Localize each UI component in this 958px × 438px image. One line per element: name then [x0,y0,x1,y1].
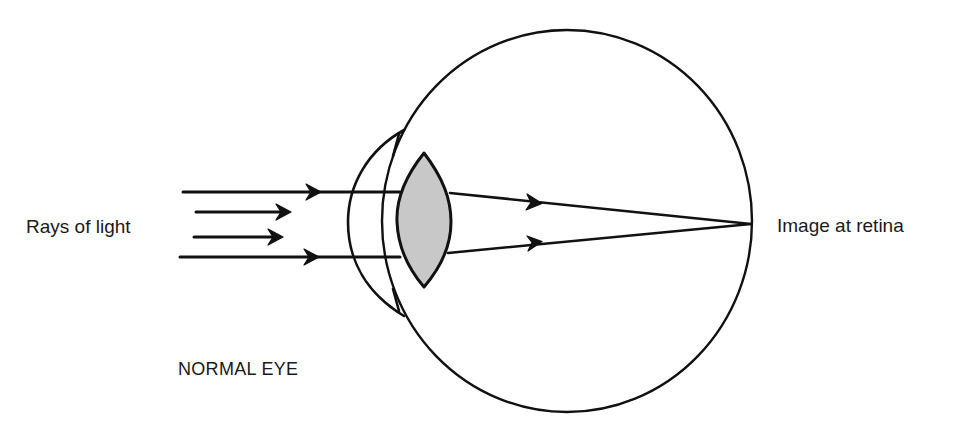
ray-outer-bottom-refracted [448,224,751,253]
arrowhead-icon [527,236,542,251]
ray-outer-top-refracted [450,193,751,224]
image-at-retina-label: Image at retina [777,216,904,235]
lens [397,153,451,287]
rays-of-light-label: Rays of light [26,217,131,236]
diagram-caption: NORMAL EYE [178,360,298,378]
